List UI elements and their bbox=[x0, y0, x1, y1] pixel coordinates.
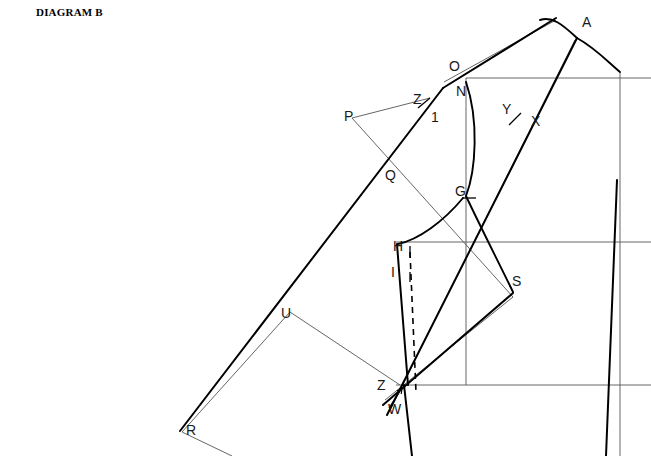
curve-armhole-n-to-g bbox=[466, 82, 475, 196]
point-label-y: Y bbox=[502, 101, 512, 117]
outline-long-diagonal-q-r bbox=[180, 88, 443, 431]
dashed-lines-group bbox=[410, 252, 416, 392]
construction-line-u-to-z bbox=[290, 312, 400, 385]
outline-lower-front bbox=[404, 385, 412, 456]
point-label-z2: Z bbox=[377, 377, 386, 393]
point-label-q: Q bbox=[385, 167, 396, 183]
outline-right-side-seam bbox=[606, 180, 617, 456]
construction-line-p-to-s bbox=[352, 118, 513, 297]
point-label-h: H bbox=[393, 238, 403, 254]
diagram-canvas: AONPZ1YXQGHISUZWR bbox=[0, 0, 651, 456]
point-label-n: N bbox=[456, 83, 466, 99]
curve-shoulder-cap bbox=[540, 19, 577, 38]
point-label-r: R bbox=[186, 422, 196, 438]
point-label-a: A bbox=[582, 14, 592, 30]
dashed-dart-guide bbox=[410, 252, 416, 392]
point-label-one: 1 bbox=[431, 109, 439, 125]
point-label-u: U bbox=[281, 305, 291, 321]
curve-neckline-a bbox=[577, 38, 620, 72]
construction-line-r-to-u bbox=[182, 312, 290, 432]
point-label-w: W bbox=[388, 401, 402, 417]
point-label-i: I bbox=[391, 264, 395, 280]
point-label-x: X bbox=[531, 113, 541, 129]
point-label-p: P bbox=[344, 108, 353, 124]
point-label-z1: Z bbox=[413, 91, 422, 107]
outline-i-to-z-vertical bbox=[399, 270, 408, 385]
curve-lines-group bbox=[398, 19, 620, 292]
point-label-o: O bbox=[449, 58, 460, 74]
point-label-s: S bbox=[512, 273, 521, 289]
outline-shoulder-o-to-peak bbox=[443, 18, 556, 88]
point-label-g: G bbox=[455, 183, 466, 199]
diagram-page: DIAGRAM B AONPZ1YXQGHISUZWR bbox=[0, 0, 651, 456]
